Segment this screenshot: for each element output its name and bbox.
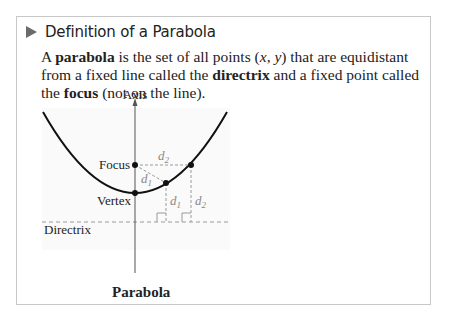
axis-label: Axis bbox=[123, 87, 148, 102]
directrix-label: Directrix bbox=[44, 222, 91, 237]
focus-label: Focus bbox=[99, 157, 130, 172]
vertex-label: Vertex bbox=[97, 193, 131, 208]
curve-point bbox=[188, 162, 194, 168]
parabola-figure: Axis Focus Vertex Directrix d2 d1 d2 d1 bbox=[0, 0, 450, 320]
vertex-point bbox=[132, 190, 138, 196]
focus-point bbox=[132, 162, 138, 168]
figure-caption: Parabola bbox=[112, 284, 170, 301]
curve-point bbox=[163, 180, 169, 186]
